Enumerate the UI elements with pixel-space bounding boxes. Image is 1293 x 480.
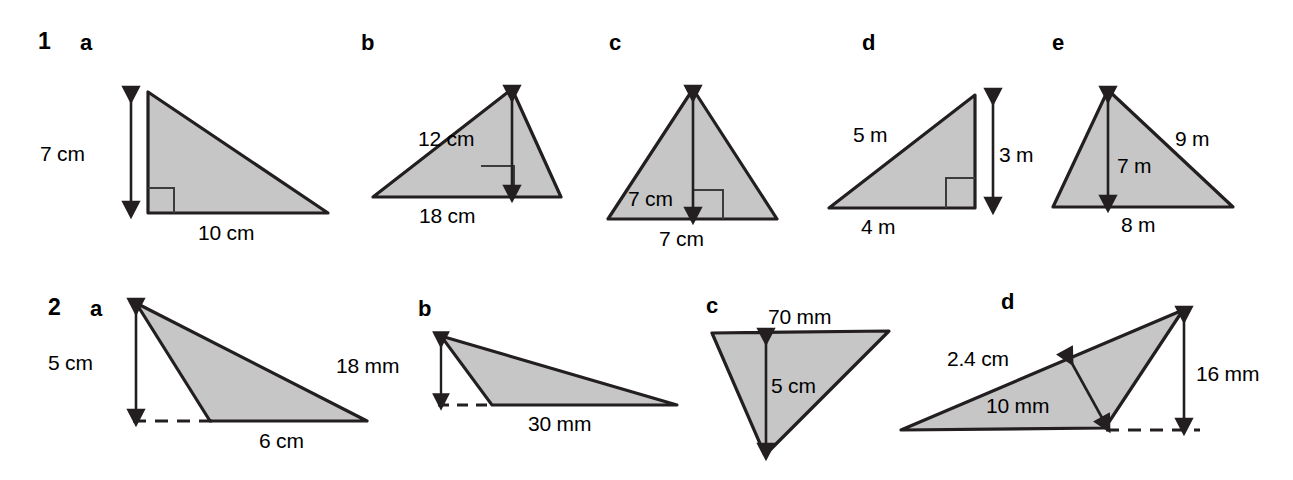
label-2c-base: 70 mm	[768, 306, 831, 327]
label-1c-height: 7 cm	[628, 188, 673, 209]
part-letter-2b: b	[418, 298, 431, 320]
part-letter-1b: b	[361, 32, 374, 54]
triangle-1d	[829, 95, 975, 208]
part-letter-2c: c	[706, 295, 718, 317]
label-1d-height: 3 m	[999, 144, 1033, 165]
label-1d-hypotenuse: 5 m	[853, 124, 887, 145]
label-2b-base: 30 mm	[528, 413, 591, 434]
label-1d-base: 4 m	[861, 216, 895, 237]
part-letter-2a: a	[90, 298, 102, 320]
label-1e-height: 7 m	[1117, 155, 1151, 176]
part-letter-1a: a	[80, 32, 92, 54]
label-1b-height: 12 cm	[418, 128, 474, 149]
figure-2a	[133, 303, 367, 421]
part-letter-1c: c	[609, 32, 621, 54]
figures-layer	[0, 0, 1293, 480]
part-letter-1e: e	[1052, 32, 1064, 54]
triangle-2a	[136, 303, 367, 421]
label-2d-vertical: 16 mm	[1196, 363, 1259, 384]
part-letter-2d: d	[1001, 291, 1014, 313]
label-2b-height: 18 mm	[336, 355, 399, 376]
figure-1d	[829, 95, 993, 208]
label-2d-side: 2.4 cm	[947, 348, 1009, 369]
figure-2d	[901, 310, 1200, 430]
worksheet-page: 1 a b c d e 7 cm 10 cm 12 cm 18 cm 7 cm …	[0, 0, 1293, 480]
label-1e-base: 8 m	[1121, 214, 1155, 235]
figure-1a	[131, 92, 328, 213]
part-letter-1d: d	[862, 32, 875, 54]
label-2c-height: 5 cm	[771, 375, 816, 396]
label-1a-base: 10 cm	[198, 222, 254, 243]
label-1c-base: 7 cm	[659, 228, 704, 249]
question-number-2: 2	[48, 296, 61, 319]
label-1a-height: 7 cm	[40, 143, 85, 164]
label-2a-height: 5 cm	[48, 352, 93, 373]
label-1b-base: 18 cm	[419, 205, 475, 226]
label-1e-side: 9 m	[1175, 128, 1209, 149]
label-2a-base: 6 cm	[259, 430, 304, 451]
triangle-2b	[441, 336, 677, 405]
figure-2b	[438, 336, 677, 405]
question-number-1: 1	[38, 30, 51, 53]
label-2d-height: 10 mm	[986, 395, 1049, 416]
